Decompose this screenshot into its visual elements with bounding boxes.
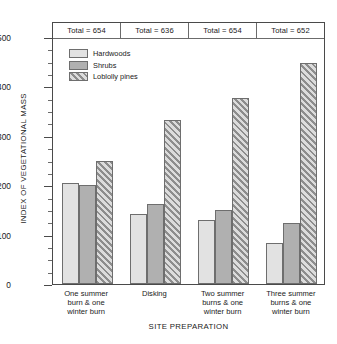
vegetational-mass-bar-chart: INDEX OF VEGETATIONAL MASS 0100200300400… — [0, 0, 337, 344]
bar-loblolly-pines — [96, 161, 113, 285]
bar-hardwoods — [130, 214, 147, 284]
total-cell: Total = 654 — [189, 23, 257, 38]
legend-item-shrubs: Shrubs — [69, 61, 138, 70]
y-tick-label: 100 — [0, 231, 11, 241]
legend-swatch-hardwoods — [69, 49, 88, 58]
bar-loblolly-pines — [232, 98, 249, 284]
y-tick-major — [44, 38, 52, 39]
y-tick-label: 0 — [6, 280, 11, 290]
bar-shrubs — [215, 210, 232, 284]
legend-swatch-loblolly-pines — [69, 72, 88, 81]
legend-label: Shrubs — [93, 61, 116, 70]
y-tick-label: 200 — [0, 181, 11, 191]
x-tick-label-line: Two summer — [189, 289, 257, 298]
x-tick-label-line: Disking — [120, 289, 188, 298]
x-tick-label-line: winter burn — [189, 307, 257, 316]
x-tick-label-line: burns & one — [257, 298, 325, 307]
bar-group — [258, 39, 326, 284]
bar-loblolly-pines — [300, 63, 317, 284]
x-tick-label-line: One summer — [52, 289, 120, 298]
x-axis-title: SITE PREPARATION — [52, 322, 325, 331]
plot-area: Total = 654 Total = 636 Total = 654 Tota… — [52, 22, 325, 285]
y-tick-major — [44, 137, 52, 138]
y-tick-major — [44, 186, 52, 187]
x-tick-label: Disking — [120, 289, 188, 298]
y-axis: INDEX OF VEGETATIONAL MASS 0100200300400… — [0, 0, 52, 344]
legend-item-loblolly-pines: Loblolly pines — [69, 72, 138, 81]
total-cell: Total = 654 — [53, 23, 121, 38]
bar-shrubs — [283, 223, 300, 284]
totals-band: Total = 654 Total = 636 Total = 654 Tota… — [53, 23, 324, 39]
total-cell: Total = 652 — [257, 23, 324, 38]
legend-label: Hardwoods — [93, 49, 130, 58]
bar-hardwoods — [62, 183, 79, 284]
legend-swatch-shrubs — [69, 61, 88, 70]
y-axis-title: INDEX OF VEGETATIONAL MASS — [19, 84, 28, 234]
x-tick-label: Three summerburns & onewinter burn — [257, 289, 325, 317]
x-tick-label-line: Three summer — [257, 289, 325, 298]
x-tick-label-line: burns & one — [189, 298, 257, 307]
bar-hardwoods — [266, 243, 283, 284]
x-tick-label: Two summerburns & onewinter burn — [189, 289, 257, 317]
bar-shrubs — [79, 185, 96, 284]
bar-hardwoods — [198, 220, 215, 284]
bar-shrubs — [147, 204, 164, 284]
y-tick-label: 400 — [0, 82, 11, 92]
x-tick-label: One summerburn & onewinter burn — [52, 289, 120, 317]
y-tick-major — [44, 236, 52, 237]
y-tick-label: 300 — [0, 132, 11, 142]
legend: Hardwoods Shrubs Loblolly pines — [69, 49, 138, 81]
legend-item-hardwoods: Hardwoods — [69, 49, 138, 58]
bar-group — [190, 39, 258, 284]
y-tick-major — [44, 87, 52, 88]
bar-loblolly-pines — [164, 120, 181, 284]
x-tick-label-line: burn & one — [52, 298, 120, 307]
legend-label: Loblolly pines — [93, 72, 138, 81]
y-tick-label: 500 — [0, 33, 11, 43]
y-tick-major — [44, 285, 52, 286]
x-tick-label-line: winter burn — [52, 307, 120, 316]
total-cell: Total = 636 — [121, 23, 189, 38]
x-tick-label-line: winter burn — [257, 307, 325, 316]
